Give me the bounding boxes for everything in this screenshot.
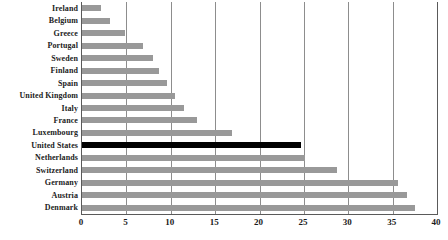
bar	[82, 55, 153, 61]
x-axis-tick-label: 10	[165, 217, 174, 227]
bar-highlighted	[82, 142, 301, 148]
y-axis-tick-label: Denmark	[0, 203, 78, 212]
bar	[82, 192, 407, 198]
y-axis-tick-label: Finland	[0, 66, 78, 75]
bar-row	[82, 55, 437, 61]
bar-row	[82, 180, 437, 186]
x-axis-tick-label: 20	[254, 217, 263, 227]
x-axis-tick-label: 5	[123, 217, 128, 227]
x-axis-tick-label: 30	[343, 217, 352, 227]
y-axis-tick-label: Netherlands	[0, 153, 78, 162]
x-axis-labels: 0510152025303540	[81, 217, 438, 233]
bar	[82, 180, 398, 186]
y-axis-tick-label: Luxembourg	[0, 128, 78, 137]
y-axis-tick-label: Portugal	[0, 41, 78, 50]
bar	[82, 155, 305, 161]
bar-row	[82, 167, 437, 173]
bar-row	[82, 5, 437, 11]
y-axis-tick-label: Sweden	[0, 54, 78, 63]
x-axis-tick-label: 0	[79, 217, 84, 227]
y-axis-tick-label: Greece	[0, 29, 78, 38]
bar-row	[82, 142, 437, 148]
bar-row	[82, 18, 437, 24]
y-axis-tick-label: Italy	[0, 104, 78, 113]
bar	[82, 43, 143, 49]
y-axis-tick-label: United States	[0, 141, 78, 150]
bar-row	[82, 68, 437, 74]
bar	[82, 105, 184, 111]
x-axis-tick-label: 15	[210, 217, 219, 227]
y-axis-tick-label: Ireland	[0, 4, 78, 13]
y-axis-tick-label: Spain	[0, 79, 78, 88]
bar	[82, 80, 167, 86]
y-axis-tick-label: United Kingdom	[0, 91, 78, 100]
bar-row	[82, 192, 437, 198]
bar-row	[82, 80, 437, 86]
bar-row	[82, 155, 437, 161]
y-axis-tick-label: Belgium	[0, 16, 78, 25]
bar-row	[82, 43, 437, 49]
bar-row	[82, 130, 437, 136]
gridline	[437, 2, 438, 214]
bar	[82, 30, 125, 36]
y-axis-tick-label: Germany	[0, 178, 78, 187]
bar-row	[82, 117, 437, 123]
bar	[82, 93, 175, 99]
y-axis-tick-label: Austria	[0, 191, 78, 200]
x-axis-tick-label: 25	[298, 217, 307, 227]
bar-chart: IrelandBelgiumGreecePortugalSwedenFinlan…	[0, 0, 448, 240]
bar	[82, 205, 415, 211]
y-axis-tick-label: France	[0, 116, 78, 125]
x-axis-tick-label: 40	[432, 217, 441, 227]
plot-area	[81, 2, 438, 215]
bar-rows	[82, 2, 437, 214]
x-axis-tick-label: 35	[387, 217, 396, 227]
bar-row	[82, 105, 437, 111]
y-axis-tick-label: Switzerland	[0, 166, 78, 175]
bar	[82, 18, 110, 24]
bar	[82, 130, 232, 136]
bar	[82, 167, 337, 173]
bar-row	[82, 93, 437, 99]
bar-row	[82, 30, 437, 36]
bar	[82, 68, 159, 74]
bar-row	[82, 205, 437, 211]
bar	[82, 117, 197, 123]
bar	[82, 5, 101, 11]
y-axis-labels: IrelandBelgiumGreecePortugalSwedenFinlan…	[0, 2, 78, 215]
